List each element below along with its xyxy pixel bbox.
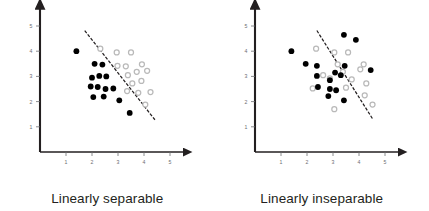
data-point-filled — [90, 94, 96, 100]
y-axis-tick-label: 1 — [244, 124, 247, 130]
data-point-open — [331, 50, 336, 55]
data-point-open — [125, 73, 130, 78]
data-point-filled — [302, 61, 308, 67]
y-axis-tick-label: 3 — [30, 73, 33, 79]
x-axis-tick-label: 5 — [383, 159, 386, 165]
data-point-filled — [313, 73, 319, 79]
data-point-open — [139, 78, 144, 83]
data-point-filled — [341, 63, 347, 69]
data-point-open — [123, 64, 128, 69]
data-point-filled — [333, 87, 339, 93]
x-axis-tick-label: 1 — [279, 159, 282, 165]
data-point-open — [129, 50, 134, 55]
data-point-open — [139, 62, 144, 67]
data-point-filled — [367, 67, 373, 73]
data-point-open — [362, 93, 367, 98]
y-axis-tick-label: 5 — [244, 23, 247, 29]
data-point-open — [125, 89, 130, 94]
data-point-filled — [341, 97, 347, 103]
x-axis-tick-label: 5 — [169, 159, 172, 165]
data-point-filled — [337, 72, 343, 78]
data-point-filled — [325, 93, 331, 99]
data-point-open — [136, 90, 141, 95]
y-axis-tick-label: 2 — [244, 99, 247, 105]
data-point-filled — [103, 74, 109, 80]
data-point-filled — [326, 86, 332, 92]
data-point-filled — [89, 75, 95, 81]
panel-linearly-separable: 1234512345 Linearly separable — [0, 0, 215, 211]
data-point-open — [363, 81, 368, 86]
data-point-open — [343, 85, 348, 90]
data-point-open — [349, 77, 354, 82]
data-point-filled — [288, 48, 294, 54]
caption-left: Linearly separable — [0, 192, 215, 206]
data-point-open — [130, 81, 135, 86]
data-point-open — [310, 86, 315, 91]
data-point-filled — [341, 32, 347, 38]
data-point-open — [370, 102, 375, 107]
x-axis-tick-label: 4 — [143, 159, 146, 165]
caption-right: Linearly inseparable — [215, 192, 429, 206]
data-point-open — [320, 73, 325, 78]
data-point-open — [114, 50, 119, 55]
data-point-filled — [96, 73, 102, 79]
y-axis-tick-label: 3 — [244, 73, 247, 79]
data-point-open — [134, 69, 139, 74]
data-point-filled — [127, 110, 133, 116]
y-axis-tick-label: 4 — [244, 48, 247, 54]
data-point-filled — [352, 37, 358, 43]
data-point-filled — [332, 70, 338, 76]
plot-area-left: 1234512345 — [0, 0, 215, 178]
scatter-plot-right: 1234512345 — [215, 0, 429, 178]
data-point-open — [357, 67, 362, 72]
data-point-open — [115, 63, 120, 68]
data-point-open — [345, 50, 350, 55]
data-point-open — [313, 46, 318, 51]
x-axis-tick-label: 4 — [357, 159, 360, 165]
figure-container: 1234512345 Linearly separable 1234512345… — [0, 0, 429, 211]
scatter-plot-left: 1234512345 — [0, 0, 215, 178]
x-axis-tick-label: 3 — [117, 159, 120, 165]
data-point-open — [335, 62, 340, 67]
data-point-filled — [88, 84, 94, 90]
x-axis-tick-label: 2 — [305, 159, 308, 165]
data-point-filled — [110, 86, 116, 92]
y-axis-tick-label: 1 — [30, 124, 33, 130]
data-point-open — [145, 68, 150, 73]
data-point-open — [361, 62, 366, 67]
data-point-filled — [326, 77, 332, 83]
data-point-filled — [313, 63, 319, 69]
panel-linearly-inseparable: 1234512345 Linearly inseparable — [215, 0, 429, 211]
x-axis-tick-label: 2 — [91, 159, 94, 165]
data-point-filled — [74, 48, 80, 54]
data-point-filled — [116, 97, 122, 103]
data-point-filled — [103, 86, 109, 92]
x-axis-tick-label: 3 — [331, 159, 334, 165]
data-point-open — [148, 90, 153, 95]
data-point-open — [98, 46, 103, 51]
y-axis-tick-label: 2 — [30, 99, 33, 105]
data-point-open — [143, 102, 148, 107]
data-point-filled — [101, 94, 107, 100]
data-point-filled — [95, 84, 101, 90]
y-axis-tick-label: 5 — [30, 23, 33, 29]
y-axis-tick-label: 4 — [30, 48, 33, 54]
plot-area-right: 1234512345 — [215, 0, 429, 178]
data-point-filled — [315, 84, 321, 90]
data-point-filled — [100, 62, 106, 68]
x-axis-tick-label: 1 — [65, 159, 68, 165]
data-point-filled — [92, 61, 98, 67]
data-point-open — [331, 107, 336, 112]
